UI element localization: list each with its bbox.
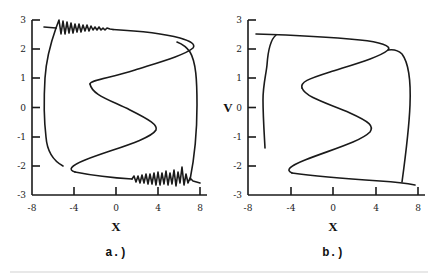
svg-text:-2: -2 <box>17 161 26 171</box>
svg-text:8: 8 <box>415 203 421 213</box>
panel-a-y-tick-labels: 3 2 1 0 -1 -2 -3 <box>17 15 26 200</box>
svg-text:-4: -4 <box>70 203 79 213</box>
panel-b-x-tick-labels: -8 -4 0 4 8 <box>244 203 422 213</box>
svg-text:0: 0 <box>236 103 242 113</box>
svg-text:-4: -4 <box>287 203 296 213</box>
svg-text:-3: -3 <box>17 190 26 200</box>
svg-text:4: 4 <box>373 203 379 213</box>
panel-a-y-ticks <box>32 20 40 166</box>
svg-text:1: 1 <box>20 73 26 83</box>
svg-text:4: 4 <box>155 203 161 213</box>
svg-text:0: 0 <box>330 203 336 213</box>
svg-text:8: 8 <box>197 203 203 213</box>
svg-text:-1: -1 <box>17 132 26 142</box>
svg-text:1: 1 <box>236 73 242 83</box>
figure: 3 2 1 0 -1 -2 -3 -8 -4 0 4 8 X a.) <box>0 0 438 274</box>
panel-a: 3 2 1 0 -1 -2 -3 -8 -4 0 4 8 X a.) <box>17 15 207 260</box>
panel-a-x-ticks <box>74 187 200 195</box>
panel-b-x-axis-title: X <box>328 219 338 234</box>
panel-b: 3 2 1 0 -1 -2 -3 V -8 -4 0 4 8 X b.) <box>223 15 425 260</box>
svg-text:-2: -2 <box>233 161 242 171</box>
panel-a-label: a.) <box>105 246 127 260</box>
svg-text:-8: -8 <box>244 203 253 213</box>
panel-b-trajectory <box>256 34 415 185</box>
svg-text:3: 3 <box>20 15 26 25</box>
svg-text:3: 3 <box>236 15 242 25</box>
panel-a-x-tick-labels: -8 -4 0 4 8 <box>28 203 204 213</box>
caption-remnant <box>10 271 428 273</box>
panel-a-x-axis-title: X <box>111 219 121 234</box>
svg-text:-1: -1 <box>233 132 242 142</box>
panel-b-x-ticks <box>291 187 418 195</box>
panel-b-label: b.) <box>322 246 344 260</box>
svg-text:-8: -8 <box>28 203 37 213</box>
svg-text:0: 0 <box>113 203 119 213</box>
svg-text:0: 0 <box>20 103 26 113</box>
svg-text:2: 2 <box>236 44 242 54</box>
svg-text:-3: -3 <box>233 190 242 200</box>
panel-b-y-axis-title: V <box>223 100 233 115</box>
panel-a-trajectory <box>44 20 200 186</box>
panel-b-y-ticks <box>248 20 256 166</box>
panel-b-y-tick-labels: 3 2 1 0 -1 -2 -3 <box>233 15 242 200</box>
svg-text:2: 2 <box>20 44 26 54</box>
